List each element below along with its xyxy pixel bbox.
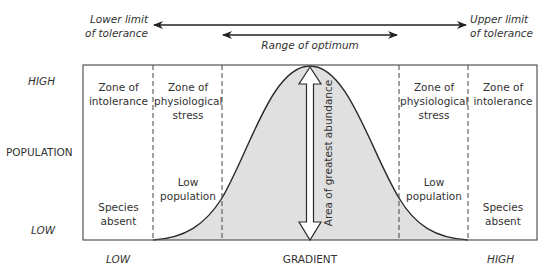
- zone-intolerance-left-note: Species absent: [84, 200, 153, 228]
- zone-stress-right-note: Low population: [400, 175, 468, 203]
- zone-title-line: physiological: [400, 94, 468, 108]
- zone-note-line: absent: [469, 214, 537, 228]
- upper-limit-line2: of tolerance: [470, 26, 546, 40]
- zone-stress-left-note: Low population: [154, 175, 222, 203]
- x-axis-label: GRADIENT: [270, 253, 350, 265]
- zone-intolerance-right-title: Zone of intolerance: [469, 80, 537, 108]
- zone-note-line: population: [400, 189, 468, 203]
- lower-limit-line1: Lower limit: [64, 12, 148, 26]
- zone-note-line: Species: [469, 200, 537, 214]
- zone-stress-left-title: Zone of physiological stress: [154, 80, 222, 122]
- zone-note-line: Low: [400, 175, 468, 189]
- zone-intolerance-left-title: Zone of intolerance: [84, 80, 153, 108]
- zone-title-line: stress: [154, 108, 222, 122]
- x-axis-high: HIGH: [487, 253, 514, 265]
- x-axis-low: LOW: [106, 253, 130, 265]
- zone-title-line: intolerance: [469, 94, 537, 108]
- zone-title-line: stress: [400, 108, 468, 122]
- zone-note-line: Species: [84, 200, 153, 214]
- zone-note-line: population: [154, 189, 222, 203]
- lower-limit-label: Lower limit of tolerance: [64, 12, 148, 40]
- y-axis-high: HIGH: [28, 75, 55, 87]
- zone-title-line: physiological: [154, 94, 222, 108]
- zone-title-line: Zone of: [84, 80, 153, 94]
- upper-limit-label: Upper limit of tolerance: [470, 12, 546, 40]
- zone-note-line: Low: [154, 175, 222, 189]
- zone-title-line: Zone of: [400, 80, 468, 94]
- y-axis-label: POPULATION: [6, 146, 73, 158]
- zone-title-line: intolerance: [84, 94, 153, 108]
- optimum-range-label: Range of optimum: [240, 39, 380, 51]
- abundance-label: Area of greatest abundance: [322, 80, 334, 227]
- y-axis-low: LOW: [31, 224, 55, 236]
- upper-limit-line1: Upper limit: [470, 12, 546, 26]
- zone-intolerance-right-note: Species absent: [469, 200, 537, 228]
- zone-title-line: Zone of: [154, 80, 222, 94]
- zone-note-line: absent: [84, 214, 153, 228]
- zone-title-line: Zone of: [469, 80, 537, 94]
- zone-stress-right-title: Zone of physiological stress: [400, 80, 468, 122]
- lower-limit-line2: of tolerance: [64, 26, 148, 40]
